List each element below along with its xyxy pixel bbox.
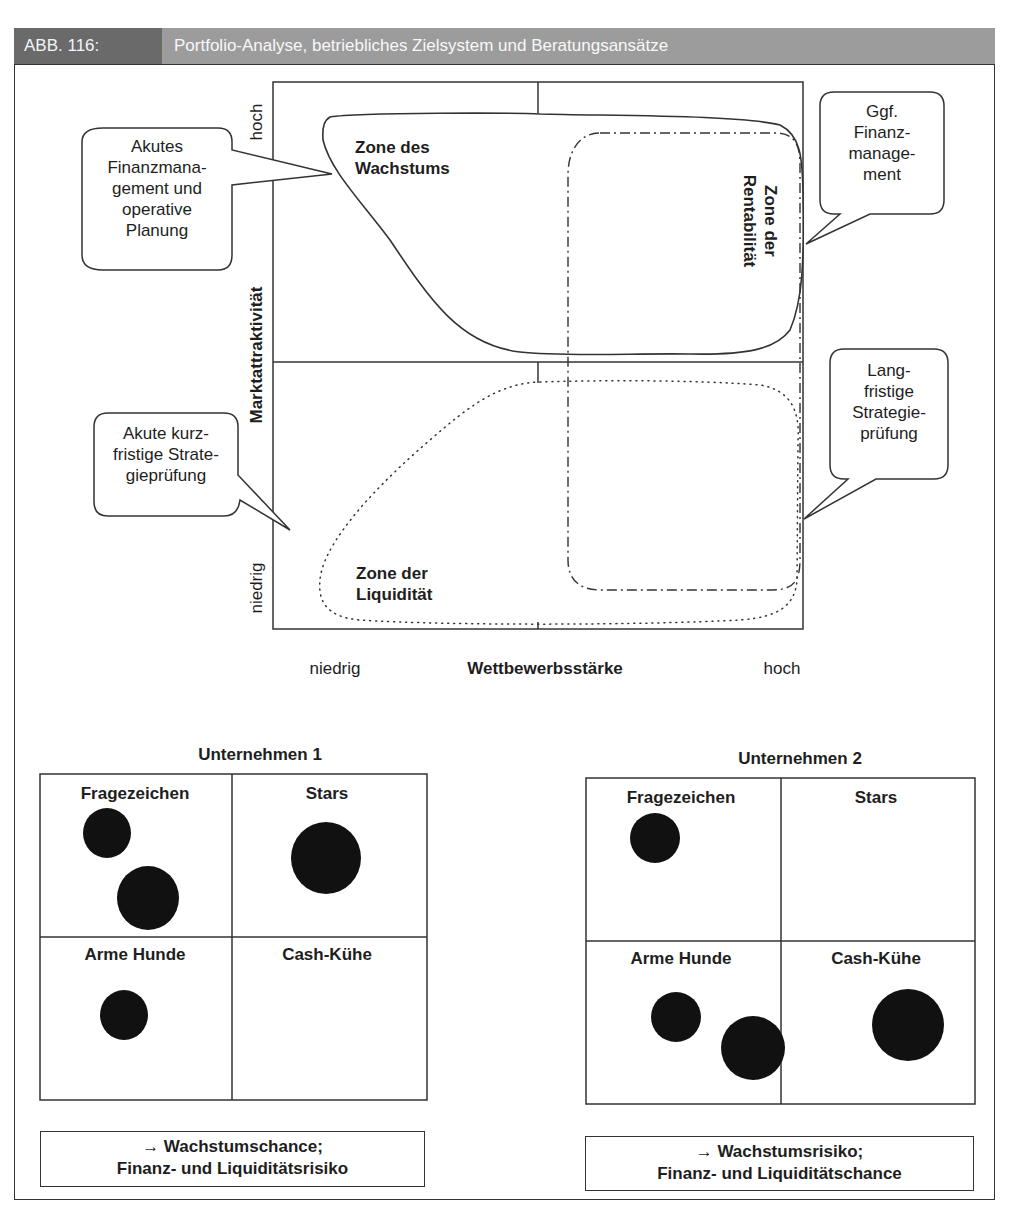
- zone-growth-label: Zone des Wachstums: [355, 137, 450, 179]
- bubble: [83, 808, 131, 858]
- y-axis-high-label: hoch: [247, 87, 267, 157]
- company-2-summary-line-1: → Wachstumsrisiko;: [586, 1141, 973, 1163]
- bubble: [721, 1016, 785, 1080]
- company-1-quadrant-cash-cows: Cash-Kühe: [232, 945, 422, 965]
- callout-bottom-right-text: Lang- fristige Strategie- prüfung: [830, 360, 948, 444]
- y-axis-title: Marktattraktivität: [247, 265, 267, 445]
- callout-top-right-text: Ggf. Finanz- manage- ment: [820, 101, 944, 185]
- company-1-summary-line-1: → Wachstumschance;: [41, 1136, 424, 1158]
- company-2-quadrant-question-marks: Fragezeichen: [586, 788, 776, 808]
- company-1-summary-line-2: Finanz- und Liquiditätsrisiko: [41, 1158, 424, 1180]
- company-1-bubbles: [83, 808, 361, 1040]
- company-1-title: Unternehmen 1: [160, 744, 360, 765]
- company-2-quadrant-poor-dogs: Arme Hunde: [586, 949, 776, 969]
- x-axis-low-label: niedrig: [300, 658, 370, 679]
- company-1-summary: → Wachstumschance; Finanz- und Liquiditä…: [40, 1131, 425, 1187]
- x-axis-title: Wettbewerbsstärke: [460, 658, 630, 679]
- y-axis-low-label: niedrig: [247, 553, 267, 623]
- company-2-quadrant-cash-cows: Cash-Kühe: [781, 949, 971, 969]
- bubble: [100, 990, 148, 1040]
- company-2-quadrant-stars: Stars: [781, 788, 971, 808]
- bubble: [651, 992, 701, 1042]
- x-axis-high-label: hoch: [752, 658, 812, 679]
- callout-top-left-text: Akutes Finanzmana- gement und operative …: [82, 136, 232, 241]
- zone-profitability-label: Zone der Rentabilität: [739, 161, 781, 281]
- callout-bottom-left-text: Akute kurz- fristige Strate- gieprüfung: [94, 423, 238, 486]
- zone-liquidity-label: Zone der Liquidität: [356, 563, 432, 605]
- company-2-title: Unternehmen 2: [700, 748, 900, 769]
- company-2-summary-line-2: Finanz- und Liquiditätschance: [586, 1163, 973, 1185]
- bubble: [117, 866, 179, 930]
- company-2-bubbles: [630, 813, 944, 1080]
- company-2-summary: → Wachstumsrisiko; Finanz- und Liquiditä…: [585, 1136, 974, 1191]
- company-1-quadrant-question-marks: Fragezeichen: [40, 784, 230, 804]
- company-1-quadrant-stars: Stars: [232, 784, 422, 804]
- bubble: [872, 989, 944, 1061]
- company-1-quadrant-poor-dogs: Arme Hunde: [40, 945, 230, 965]
- bubble: [630, 813, 680, 863]
- bubble: [291, 822, 361, 894]
